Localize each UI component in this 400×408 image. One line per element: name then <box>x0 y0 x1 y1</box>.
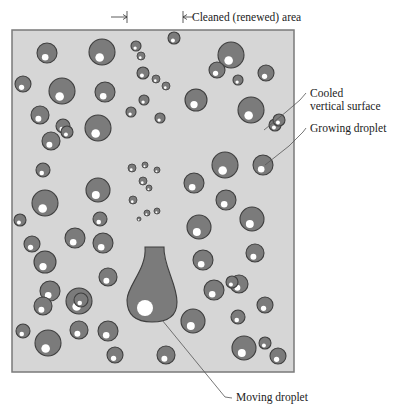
droplet <box>137 52 145 60</box>
droplet <box>232 336 256 360</box>
label-moving-droplet: Moving droplet <box>236 391 308 404</box>
droplet <box>152 75 160 83</box>
droplet <box>65 228 85 248</box>
droplet <box>257 297 273 313</box>
condensation-diagram <box>0 0 400 408</box>
droplet <box>14 214 26 226</box>
droplet <box>168 32 180 44</box>
droplet <box>128 164 136 172</box>
droplet <box>144 210 150 216</box>
droplet <box>240 207 264 231</box>
droplet <box>193 250 213 270</box>
droplet <box>187 215 211 239</box>
diagram-stage: Cleaned (renewed) area Cooled vertical s… <box>0 0 400 408</box>
droplet <box>35 330 61 356</box>
droplet <box>32 190 58 216</box>
droplet <box>154 167 160 173</box>
droplet <box>93 233 113 253</box>
droplet <box>258 65 274 81</box>
cleaned-area-marker <box>111 11 193 23</box>
droplet <box>93 212 107 226</box>
droplet <box>131 41 141 51</box>
droplet <box>34 297 52 315</box>
droplet <box>49 78 75 104</box>
droplet <box>154 208 160 214</box>
droplet <box>137 67 149 79</box>
droplet <box>86 178 110 202</box>
droplet <box>155 113 165 123</box>
droplet <box>226 276 238 288</box>
droplet <box>212 152 238 178</box>
droplet <box>42 132 60 150</box>
droplet <box>137 217 141 221</box>
droplet <box>139 177 147 185</box>
droplet <box>36 163 50 177</box>
droplet <box>129 196 137 204</box>
droplet <box>85 115 111 141</box>
label-growing-droplet: Growing droplet <box>310 122 386 135</box>
droplet <box>126 107 136 117</box>
droplet <box>181 309 205 333</box>
droplet <box>233 75 243 85</box>
droplet <box>31 106 49 124</box>
droplet <box>146 185 152 191</box>
droplet <box>16 324 30 338</box>
droplet <box>185 89 207 111</box>
droplet <box>107 347 123 363</box>
droplet <box>231 310 245 324</box>
droplet <box>34 251 56 273</box>
droplet <box>246 244 264 262</box>
droplet <box>89 39 115 65</box>
droplet <box>70 321 88 339</box>
droplet <box>209 62 225 78</box>
label-cooled-surface-line1: Cooled <box>310 87 343 100</box>
droplet <box>216 190 236 210</box>
droplet <box>99 268 117 286</box>
droplet <box>253 155 273 175</box>
droplet <box>270 348 286 364</box>
droplet <box>204 280 224 300</box>
droplet <box>37 43 57 63</box>
droplet <box>95 82 115 102</box>
droplet <box>238 97 264 123</box>
droplet <box>24 236 40 252</box>
droplet <box>74 293 88 307</box>
droplet <box>139 95 149 105</box>
label-cleaned-area: Cleaned (renewed) area <box>192 11 301 24</box>
droplet <box>98 321 118 341</box>
droplet <box>184 173 204 193</box>
droplet <box>259 337 271 349</box>
droplet <box>142 162 148 168</box>
label-cooled-surface-line2: vertical surface <box>310 100 381 113</box>
droplet <box>162 82 170 90</box>
droplet <box>61 126 73 138</box>
droplet <box>273 114 285 126</box>
droplet <box>157 346 175 364</box>
droplet <box>15 76 31 92</box>
